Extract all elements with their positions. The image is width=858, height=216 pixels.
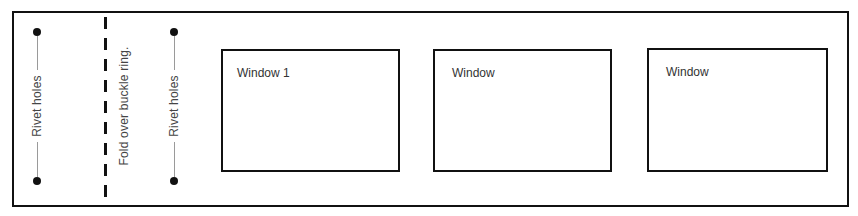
rivet-hole-top-left (33, 28, 41, 36)
rivet-hole-bottom-right (170, 177, 178, 185)
window-3-label: Window (666, 65, 709, 79)
rivet-hole-top-right (170, 28, 178, 36)
window-1: Window 1 (221, 49, 400, 172)
rivet-hole-bottom-left (33, 177, 41, 185)
window-2-label: Window (452, 66, 495, 80)
fold-dashed-line (104, 17, 107, 199)
window-3: Window (647, 48, 828, 172)
window-2: Window (433, 49, 612, 172)
rivet-holes-label-left: Rivet holes (30, 70, 44, 142)
fold-label: Fold over buckle ring. (117, 43, 131, 169)
rivet-holes-label-right: Rivet holes (167, 70, 181, 142)
window-1-label: Window 1 (237, 66, 290, 80)
